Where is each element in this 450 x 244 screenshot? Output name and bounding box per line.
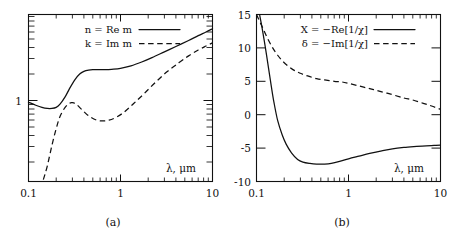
legend-a: n = Re m k = Im m xyxy=(85,24,180,49)
x-axis-label-b: λ, μm xyxy=(394,162,424,174)
y-tick-label-b-5: -10 xyxy=(234,176,251,188)
y-tick-label-b-4: -5 xyxy=(241,142,251,154)
x-tick-label-a-1: 1 xyxy=(117,187,124,199)
x-tick-label-b-0: 0.1 xyxy=(248,187,265,199)
panel-caption-b: (b) xyxy=(334,216,350,229)
x-axis-label-a: λ, μm xyxy=(166,162,196,174)
panel-a-plot: 1 0.1 1 10 λ, μm n = Re m k = Im m (a) xyxy=(0,0,225,244)
x-tick-label-a-2: 10 xyxy=(206,187,219,199)
figure-two-panel: 1 0.1 1 10 λ, μm n = Re m k = Im m (a) xyxy=(0,0,450,244)
y-tick-label-b-3: 0 xyxy=(244,109,251,121)
curve-k-imag-m xyxy=(43,43,212,180)
legend-label-b-0: X = −Re[1/χ] xyxy=(301,24,368,35)
panel-b: 15 10 5 0 -5 -10 0.1 1 10 λ, μm X = −Re[… xyxy=(225,0,450,244)
y-tick-label-a-1: 1 xyxy=(15,95,22,107)
legend-label-a-1: k = Im m xyxy=(85,38,132,49)
legend-label-b-1: δ = −Im[1/χ] xyxy=(302,38,368,49)
x-tick-label-b-1: 1 xyxy=(345,187,352,199)
panel-b-plot: 15 10 5 0 -5 -10 0.1 1 10 λ, μm X = −Re[… xyxy=(225,0,450,244)
y-tick-label-b-0: 15 xyxy=(238,9,251,21)
y-tick-label-b-1: 10 xyxy=(238,42,251,54)
y-tick-label-b-2: 5 xyxy=(244,75,251,87)
x-tick-label-b-2: 10 xyxy=(434,187,447,199)
legend-b: X = −Re[1/χ] δ = −Im[1/χ] xyxy=(301,24,415,49)
panel-a: 1 0.1 1 10 λ, μm n = Re m k = Im m (a) xyxy=(0,0,225,244)
x-tick-label-a-0: 0.1 xyxy=(20,187,37,199)
curve-X-neg-re-inv-chi xyxy=(260,15,441,165)
x-axis-minor-ticks-a xyxy=(56,15,208,182)
panel-caption-a: (a) xyxy=(105,216,120,229)
legend-label-a-0: n = Re m xyxy=(85,24,133,35)
